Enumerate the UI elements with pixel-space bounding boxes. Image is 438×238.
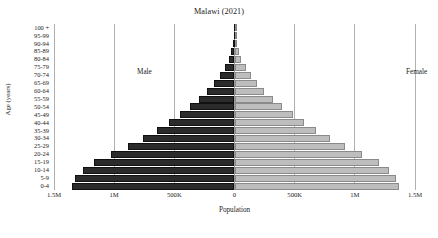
bar-male [83, 167, 235, 174]
plot-area: Male Female [54, 24, 415, 190]
y-tick-label: 35-39 [0, 127, 49, 135]
pyramid-row [54, 182, 415, 190]
pyramid-row [54, 166, 415, 174]
bar-female [235, 32, 237, 39]
bar-female [235, 72, 251, 79]
bar-male [157, 127, 235, 134]
y-tick-label: 20-24 [0, 150, 49, 158]
bar-female [235, 159, 379, 166]
pyramid-row [54, 103, 415, 111]
pyramid-row [54, 24, 415, 32]
bar-female [235, 119, 304, 126]
y-tick-label: 75-79 [0, 63, 49, 71]
bar-female [235, 103, 283, 110]
bar-male [180, 111, 235, 118]
bar-female [235, 24, 237, 31]
pyramid-row [54, 150, 415, 158]
population-pyramid-figure: Malawi (2021) Age (years) 100 +95-9990-9… [0, 0, 438, 238]
y-tick-label: 45-49 [0, 111, 49, 119]
pyramid-row [54, 64, 415, 72]
bar-male [128, 143, 235, 150]
bar-male [72, 183, 235, 190]
y-tick-label: 95-99 [0, 32, 49, 40]
bar-male [94, 159, 235, 166]
y-tick-label: 60-64 [0, 87, 49, 95]
pyramid-row [54, 95, 415, 103]
y-tick-label: 5-9 [0, 174, 49, 182]
x-tick-label: 1M [94, 191, 134, 198]
y-tick-label: 70-74 [0, 71, 49, 79]
series-label-female: Female [406, 68, 427, 76]
pyramid-row [54, 48, 415, 56]
pyramid-row [54, 158, 415, 166]
bar-female [235, 80, 257, 87]
bar-male [75, 175, 234, 182]
pyramid-row [54, 71, 415, 79]
bar-male [220, 72, 234, 79]
chart-title: Malawi (2021) [0, 7, 438, 16]
y-tick-label: 55-59 [0, 95, 49, 103]
x-axis-tick-labels: 1.5M1M500K0500K1M1.5M [54, 191, 415, 203]
bar-male [190, 103, 235, 110]
y-tick-label: 90-94 [0, 40, 49, 48]
y-tick-label: 40-44 [0, 119, 49, 127]
bar-female [235, 183, 400, 190]
y-tick-label: 15-19 [0, 158, 49, 166]
y-axis-tick-labels: 100 +95-9990-9485-8980-8475-7970-7465-69… [0, 24, 52, 190]
y-tick-label: 80-84 [0, 55, 49, 63]
bar-male [214, 80, 234, 87]
bar-male [169, 119, 235, 126]
bar-male [225, 64, 235, 71]
y-tick-label: 30-34 [0, 134, 49, 142]
x-tick-label: 500K [154, 191, 194, 198]
pyramid-row [54, 127, 415, 135]
bar-female [235, 127, 317, 134]
y-tick-label: 100 + [0, 24, 49, 32]
bar-female [235, 135, 331, 142]
bar-male [207, 88, 234, 95]
bar-female [235, 175, 396, 182]
pyramid-row [54, 87, 415, 95]
y-tick-label: 65-69 [0, 79, 49, 87]
pyramid-row [54, 135, 415, 143]
y-tick-label: 85-89 [0, 47, 49, 55]
pyramid-row [54, 32, 415, 40]
x-tick-label: 1.5M [395, 191, 435, 198]
pyramid-row [54, 40, 415, 48]
x-tick-label: 500K [275, 191, 315, 198]
bar-female [235, 40, 237, 47]
bar-female [235, 96, 273, 103]
bar-male [143, 135, 235, 142]
series-label-male: Male [137, 68, 152, 76]
pyramid-row [54, 143, 415, 151]
bar-female [235, 88, 265, 95]
bar-male [199, 96, 235, 103]
x-tick-label: 1M [335, 191, 375, 198]
pyramid-row [54, 56, 415, 64]
x-tick-label: 1.5M [34, 191, 74, 198]
y-tick-label: 25-29 [0, 142, 49, 150]
bar-female [235, 167, 390, 174]
y-tick-label: 10-14 [0, 166, 49, 174]
bar-female [235, 48, 239, 55]
bar-female [235, 151, 362, 158]
x-tick-label: 0 [215, 191, 255, 198]
x-axis-title: Population [54, 206, 415, 214]
bar-male [111, 151, 234, 158]
pyramid-row [54, 174, 415, 182]
bar-female [235, 56, 242, 63]
bar-female [235, 64, 246, 71]
y-tick-label: 50-54 [0, 103, 49, 111]
pyramid-row [54, 111, 415, 119]
pyramid-row [54, 119, 415, 127]
bar-female [235, 143, 346, 150]
pyramid-row [54, 79, 415, 87]
bar-female [235, 111, 293, 118]
y-tick-label: 0-4 [0, 182, 49, 190]
pyramid-rows [54, 24, 415, 190]
